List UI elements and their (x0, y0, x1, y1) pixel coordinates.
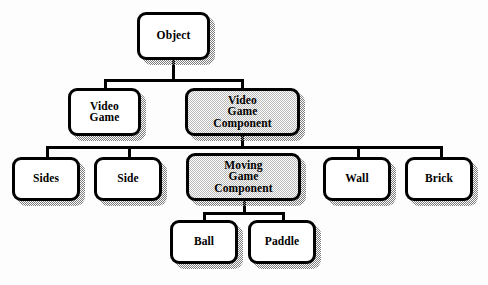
node-label-object: Object (155, 30, 193, 42)
node-video-game-component[interactable]: Video Game Component (185, 88, 300, 136)
node-label-sides: Sides (31, 173, 61, 185)
node-object[interactable]: Object (137, 12, 210, 60)
node-video-game[interactable]: Video Game (68, 88, 141, 136)
node-label-paddle: Paddle (263, 236, 301, 248)
node-moving-game-component[interactable]: Moving Game Component (186, 153, 301, 201)
node-label-wall: Wall (343, 173, 370, 185)
connector-bus-3 (203, 212, 285, 215)
class-hierarchy-diagram: ObjectVideo GameVideo Game ComponentSide… (0, 0, 488, 285)
node-paddle[interactable]: Paddle (248, 220, 316, 264)
node-ball[interactable]: Ball (170, 220, 238, 264)
connector-bus-2 (46, 146, 443, 149)
node-label-side: Side (115, 173, 141, 185)
node-wall[interactable]: Wall (323, 157, 391, 201)
node-brick[interactable]: Brick (405, 157, 473, 201)
node-label-brick: Brick (423, 173, 455, 185)
node-label-video-game: Video Game (88, 101, 122, 124)
node-sides[interactable]: Sides (12, 157, 80, 201)
node-label-moving-game-component: Moving Game Component (212, 160, 274, 195)
connector-bus-1 (104, 79, 244, 82)
node-label-ball: Ball (192, 236, 216, 248)
node-label-video-game-component: Video Game Component (211, 95, 273, 130)
node-side[interactable]: Side (94, 157, 162, 201)
